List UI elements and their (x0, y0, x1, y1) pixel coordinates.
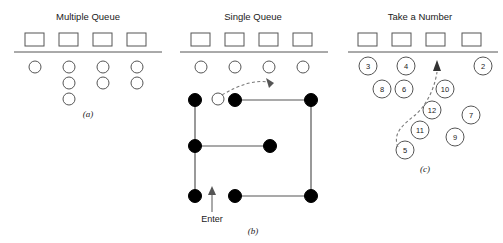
server-station-b-1 (191, 33, 210, 46)
ticket-number-4: 4 (404, 62, 408, 71)
customer-b-3 (263, 61, 275, 73)
customer-b-1 (195, 61, 207, 73)
customer-a-4 (131, 61, 143, 73)
server-station-a-1 (25, 33, 44, 46)
panel-title-a: Multiple Queue (56, 11, 120, 22)
ticket-number-10: 10 (441, 85, 449, 94)
queue-dot-head (189, 94, 202, 107)
customer-b-4 (297, 61, 309, 73)
queue-dot-row3-right (305, 190, 318, 203)
panel-caption-a: (a) (83, 109, 94, 119)
server-station-a-2 (59, 33, 78, 46)
called-to-server-arrowhead-b (266, 78, 274, 88)
panel-b: Single QueueEnter(b) (180, 11, 328, 236)
ticket-number-9: 9 (453, 133, 457, 142)
ticket-number-5: 5 (403, 146, 407, 155)
queue-dot-row2-right (264, 140, 277, 153)
enter-label: Enter (201, 214, 223, 224)
server-station-a-3 (93, 33, 112, 46)
customer-a-1 (29, 61, 41, 73)
customer-a-2 (63, 61, 75, 73)
panel-title-c: Take a Number (388, 11, 452, 22)
queue-dot-row1-b (229, 94, 242, 107)
ticket-number-6: 6 (402, 85, 406, 94)
panel-c: Take a Number34286101271195(c) (348, 11, 498, 174)
vacated-slot-c (431, 57, 449, 75)
ticket-number-12: 12 (428, 106, 436, 115)
server-station-c-3 (426, 33, 445, 46)
server-station-c-4 (462, 33, 481, 46)
customer-a-8 (63, 93, 75, 105)
customer-a-7 (131, 77, 143, 89)
called-to-server-arrow-b (222, 82, 268, 95)
ticket-number-11: 11 (416, 126, 424, 135)
panel-caption-b: (b) (248, 226, 259, 236)
ticket-number-2: 2 (481, 62, 485, 71)
panel-a: Multiple Queue(a) (14, 11, 162, 119)
queue-dot-row1-right (305, 94, 318, 107)
queue-dot-row3-mid (229, 190, 242, 203)
ticket-number-3: 3 (366, 62, 370, 71)
enter-arrowhead (208, 186, 216, 195)
server-station-c-2 (392, 33, 411, 46)
customer-a-6 (97, 77, 109, 89)
server-station-c-1 (358, 33, 377, 46)
server-station-b-2 (225, 33, 244, 46)
server-station-a-4 (127, 33, 146, 46)
customer-a-3 (97, 61, 109, 73)
queue-configurations-diagram: Multiple Queue(a)Single QueueEnter(b)Tak… (0, 0, 503, 243)
server-station-b-4 (293, 33, 312, 46)
customer-b-2 (229, 61, 241, 73)
queue-dot-row2-left (189, 140, 202, 153)
server-station-b-3 (259, 33, 278, 46)
ticket-number-7: 7 (469, 111, 473, 120)
queue-dot-row3-left (189, 190, 202, 203)
number-called-arrowhead-c (433, 60, 441, 71)
panel-caption-c: (c) (420, 164, 430, 174)
ticket-number-8: 8 (380, 85, 384, 94)
panel-title-b: Single Queue (224, 11, 282, 22)
customer-a-5 (63, 77, 75, 89)
